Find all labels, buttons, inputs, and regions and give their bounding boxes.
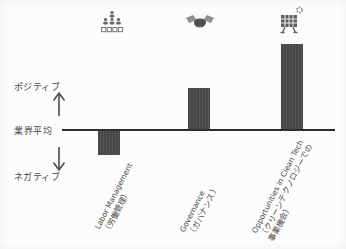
down-arrow-icon [52,146,66,172]
organization-people-icon [99,10,125,36]
category-label-governance: Governance （ガバナンス） [179,137,242,238]
bar-labor-management [98,131,120,155]
solar-panel-icon [276,4,306,35]
category-name-en: Governance [179,137,234,234]
bar-clean-tech-opportunities [281,44,303,130]
handshake-icon [185,12,215,32]
negative-axis-label: ネガティブ [8,172,60,182]
category-label-clean-tech-opportunities: Opportunities in Clean Tech （クリーンテクノロジーで… [251,138,323,243]
up-arrow-icon [52,91,66,117]
industry-average-label: 業界平均 [14,126,52,136]
category-name-ja: （ガバナンス） [187,141,243,238]
industry-average-baseline [62,129,335,131]
bar-governance [188,88,210,130]
esg-rating-bar-chart: ポジティブ 業界平均 ネガティブ Labor Management （労働管理）… [0,0,346,249]
